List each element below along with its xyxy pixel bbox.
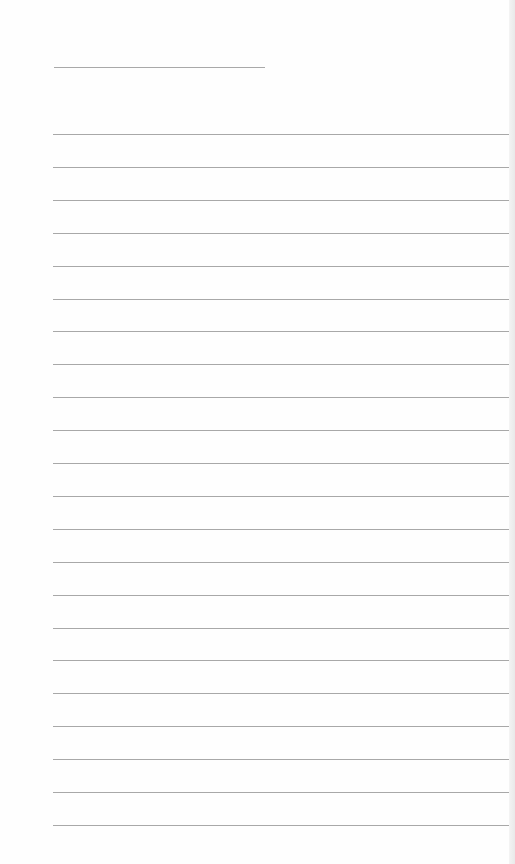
ruled-line — [53, 134, 510, 135]
name-line — [54, 67, 265, 68]
ruled-line — [53, 693, 510, 694]
ruled-line — [53, 628, 510, 629]
ruled-line — [53, 660, 510, 661]
ruled-line — [53, 397, 510, 398]
ruled-line — [53, 299, 510, 300]
ruled-line — [53, 595, 510, 596]
lined-paper-sheet — [0, 0, 511, 864]
ruled-line — [53, 529, 510, 530]
paper-edge-shadow — [509, 0, 515, 864]
ruled-line — [53, 200, 510, 201]
ruled-line — [53, 266, 510, 267]
ruled-line — [53, 726, 510, 727]
ruled-line — [53, 430, 510, 431]
ruled-line — [53, 759, 510, 760]
ruled-line — [53, 463, 510, 464]
ruled-line — [53, 496, 510, 497]
ruled-line — [53, 562, 510, 563]
ruled-line — [53, 233, 510, 234]
ruled-line — [53, 364, 510, 365]
ruled-line — [53, 792, 510, 793]
ruled-line — [53, 331, 510, 332]
ruled-line — [53, 825, 510, 826]
ruled-line — [53, 167, 510, 168]
